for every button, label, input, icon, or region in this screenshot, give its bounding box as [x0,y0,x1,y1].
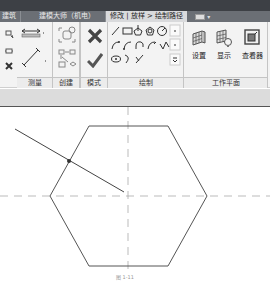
draw-gallery-expand-icon[interactable] [170,54,180,65]
cancel-edit-mode-button[interactable] [86,27,103,44]
measure-between-references-icon[interactable] [21,26,45,40]
workplane-set-icon [190,28,208,46]
ribbon-tab-bar: 建筑 建模大师（机电） 修改 | 放样 > 绘制路径 ▾ [0,11,270,22]
panel-workplane: 设置 显示 查看器 工作平面 [184,22,268,88]
pick-lines-icon[interactable] [136,55,143,63]
finish-edit-mode-button[interactable] [86,51,103,68]
options-bar [0,89,270,107]
close-icon [87,28,103,44]
workplane-viewer-button[interactable]: 查看器 [238,26,266,66]
window-switch-icon[interactable] [195,14,205,20]
workplane-set-label: 设置 [189,50,209,60]
workplane-show-icon [215,28,233,48]
checkmark-icon [87,52,103,68]
drawing-canvas[interactable] [0,107,270,282]
panel-label-draw: 绘制 [108,77,183,88]
panel-draw: 绘制 [108,22,184,88]
row2-more-icon[interactable] [170,39,180,50]
panel-create: 创建 [53,22,80,88]
workplane-viewer-label: 查看器 [238,50,266,60]
tab-modeling-master-mep[interactable]: 建模大师（机电） [21,11,106,22]
panel-label-measure: 测量 [17,77,52,88]
ellipse-icon[interactable] [112,56,121,62]
partial-ellipse-icon[interactable] [125,55,128,63]
workplane-show-label: 显示 [214,50,234,60]
fillet-arc-icon[interactable] [148,42,156,49]
tab-modify-sweep-draw-path[interactable]: 修改 | 放样 > 绘制路径 [106,11,187,22]
tangent-arc-icon[interactable] [136,42,143,49]
rectangle-icon[interactable] [123,28,132,34]
create-group-icon[interactable] [57,26,77,44]
path-profile-intersection-point[interactable] [67,159,71,163]
chevron-down-icon[interactable]: ▾ [207,13,210,20]
panel-measure: 测量 [17,22,53,88]
ribbon: 测量 创建 模式 [0,22,270,88]
inscribed-polygon-icon[interactable] [134,25,142,35]
panel-label-mode: 模式 [81,77,107,88]
panel-modify-small [0,22,17,88]
create-similar-icon[interactable] [57,48,77,70]
circle-icon[interactable] [158,27,167,36]
panel-label-workplane: 工作平面 [184,77,267,88]
workplane-show-button[interactable]: 显示 [214,26,234,66]
title-bar [0,0,270,11]
center-ends-arc-icon[interactable] [123,42,131,50]
measure-along-element-icon[interactable] [21,44,47,68]
panel-mode: 模式 [80,22,108,88]
workplane-viewer-icon [243,28,261,46]
delete-icon[interactable] [3,60,14,71]
start-end-arc-icon[interactable] [112,41,120,49]
line-icon[interactable] [112,27,119,35]
row1-more-icon[interactable] [170,25,180,36]
spline-icon[interactable] [160,42,169,49]
move-icon[interactable] [3,28,14,39]
figure-caption: 图 1-11 [116,273,134,280]
circumscribed-polygon-icon[interactable] [146,27,154,35]
copy-icon[interactable] [3,45,14,56]
panel-label-create: 创建 [53,77,79,88]
workplane-set-button[interactable]: 设置 [189,26,209,66]
tab-architecture[interactable]: 建筑 [0,11,21,22]
